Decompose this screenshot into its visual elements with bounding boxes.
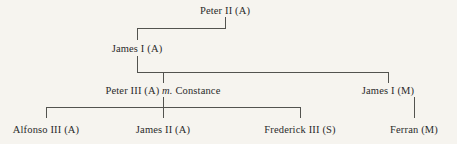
node-james-i-a-label: James I (A)	[112, 43, 163, 54]
genealogy-tree: Peter II (A) James I (A) Peter III (A) m…	[0, 0, 457, 144]
node-peter-iii: Peter III (A) m. Constance	[106, 85, 221, 97]
node-frederick-iii-label: Frederick III (S)	[264, 124, 335, 135]
connector-generation-3-bar	[137, 72, 389, 73]
node-james-i-m: James I (M)	[362, 85, 414, 97]
connector-frederick-iii-drop	[300, 107, 301, 118]
connector-james-i-a-stub	[137, 56, 138, 73]
node-james-ii: James II (A)	[136, 124, 190, 136]
node-frederick-iii: Frederick III (S)	[264, 124, 335, 136]
node-alfonso-iii: Alfonso III (A)	[13, 124, 79, 136]
node-peter-ii: Peter II (A)	[200, 5, 250, 17]
node-james-i-m-label: James I (M)	[362, 85, 414, 96]
node-ferran-label: Ferran (M)	[390, 124, 438, 135]
connector-peter-ii-to-james-i-bar	[137, 28, 226, 29]
node-james-ii-label: James II (A)	[136, 124, 190, 135]
connector-james-i-m-drop	[388, 72, 389, 83]
node-james-i-a: James I (A)	[112, 43, 163, 55]
marriage-marker: m.	[159, 85, 175, 96]
node-constance-label: Constance	[175, 85, 220, 96]
connector-james-ii-drop	[163, 107, 164, 118]
connector-james-i-a-drop	[137, 28, 138, 40]
node-peter-iii-label: Peter III (A)	[106, 85, 160, 96]
connector-alfonso-iii-drop	[46, 107, 47, 118]
connector-ferran-drop	[414, 97, 415, 118]
connector-generation-4-bar	[46, 107, 301, 108]
node-alfonso-iii-label: Alfonso III (A)	[13, 124, 79, 135]
node-ferran: Ferran (M)	[390, 124, 438, 136]
node-peter-ii-label: Peter II (A)	[200, 5, 250, 16]
connector-peter-iii-drop	[163, 72, 164, 83]
